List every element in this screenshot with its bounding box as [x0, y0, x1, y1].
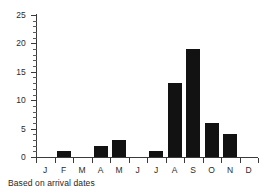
- x-tick-label-0: J: [36, 166, 54, 175]
- bar-A-3: [94, 146, 108, 157]
- x-tick-label-3: A: [92, 166, 110, 175]
- x-tick-label-10: N: [221, 166, 239, 175]
- x-tick: [73, 158, 74, 163]
- x-tick-label-6: J: [147, 166, 165, 175]
- bar-M-4: [112, 140, 126, 157]
- x-tick: [240, 158, 241, 163]
- y-tick-label: 20: [0, 39, 26, 48]
- x-tick: [36, 158, 37, 163]
- y-tick-label: 25: [0, 11, 26, 20]
- y-tick-label: 10: [0, 96, 26, 105]
- x-tick-label-1: F: [55, 166, 73, 175]
- y-tick-label: 5: [0, 125, 26, 134]
- x-tick: [203, 158, 204, 163]
- bar-chart-figure: 0510152025 JFMAMJJASOND Based on arrival…: [0, 0, 272, 193]
- bar-F-1: [57, 151, 71, 157]
- x-tick: [221, 158, 222, 163]
- bar-J-6: [149, 151, 163, 157]
- plot-area: [36, 10, 258, 162]
- x-tick-label-4: M: [110, 166, 128, 175]
- x-tick: [166, 158, 167, 163]
- chart-caption: Based on arrival dates: [8, 178, 95, 188]
- x-tick: [55, 158, 56, 163]
- x-tick: [129, 158, 130, 163]
- bar-O-9: [205, 123, 219, 157]
- x-tick: [92, 158, 93, 163]
- x-tick: [147, 158, 148, 163]
- x-tick-label-8: S: [184, 166, 202, 175]
- bar-A-7: [168, 83, 182, 157]
- x-tick: [110, 158, 111, 163]
- y-tick-label: 15: [0, 68, 26, 77]
- bar-N-10: [223, 134, 237, 157]
- bar-S-8: [186, 49, 200, 157]
- x-tick-label-2: M: [73, 166, 91, 175]
- y-tick-label: 0: [0, 153, 26, 162]
- x-tick: [258, 158, 259, 163]
- x-tick-label-11: D: [240, 166, 258, 175]
- x-tick: [184, 158, 185, 163]
- x-tick-label-5: J: [129, 166, 147, 175]
- x-tick-label-7: A: [166, 166, 184, 175]
- x-tick-label-9: O: [203, 166, 221, 175]
